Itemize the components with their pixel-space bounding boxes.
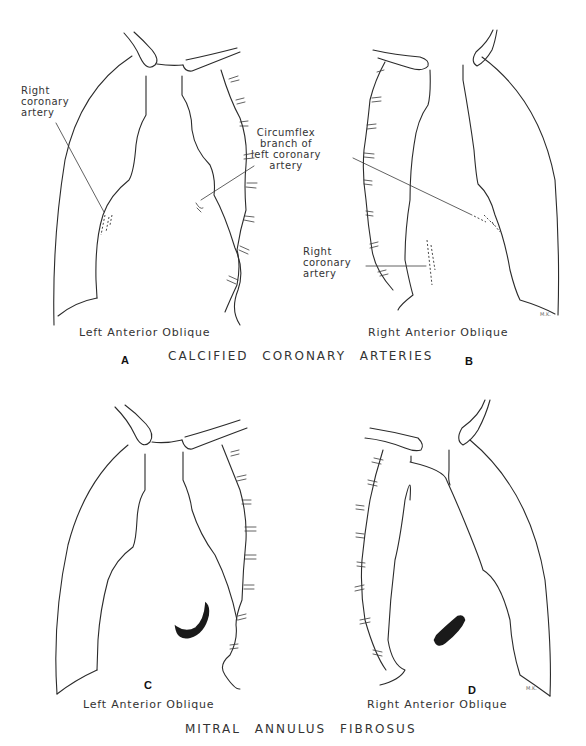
mitral-calcification-d: [435, 616, 464, 644]
label-line: branch of: [251, 138, 321, 149]
label-line: coronary: [303, 257, 351, 268]
mitral-calcification-c: [176, 604, 208, 638]
label-line: Right: [303, 246, 351, 257]
annotation-circumflex-branch: Circumflex branch of left coronary arter…: [251, 127, 321, 171]
section-title-calcified-coronary-arteries: CALCIFIED CORONARY ARTERIES: [168, 349, 433, 363]
panel-d-heart-outline: [355, 400, 550, 696]
section-title-mitral-annulus-fibrosus: MITRAL ANNULUS FIBROSUS: [185, 722, 417, 736]
annotation-right-coronary-artery-b: Right coronary artery: [303, 246, 351, 279]
artist-initials-d: M.K.: [526, 685, 537, 691]
panel-b-heart-outline: [353, 30, 559, 315]
view-label-d: Right Anterior Oblique: [367, 698, 507, 711]
panel-letter-b: B: [465, 355, 473, 367]
label-line: artery: [303, 268, 351, 279]
diagram-artwork: [0, 0, 586, 746]
label-line: left coronary: [251, 149, 321, 160]
view-label-b: Right Anterior Oblique: [368, 326, 508, 339]
annotation-right-coronary-artery-a: Right coronary artery: [21, 85, 69, 118]
view-label-c: Left Anterior Oblique: [83, 698, 214, 711]
artist-initials-b: M.K.: [540, 311, 551, 317]
panel-letter-a: A: [121, 354, 129, 366]
label-line: coronary: [21, 96, 69, 107]
view-label-a: Left Anterior Oblique: [79, 326, 210, 339]
panel-c-heart-outline: [56, 405, 256, 694]
label-line: artery: [251, 160, 321, 171]
label-line: Circumflex: [251, 127, 321, 138]
label-line: Right: [21, 85, 69, 96]
panel-letter-d: D: [468, 684, 476, 696]
label-line: artery: [21, 107, 69, 118]
panel-letter-c: C: [144, 679, 152, 691]
panel-a-heart-outline: [54, 32, 257, 325]
